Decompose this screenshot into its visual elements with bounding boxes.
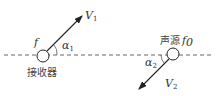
diagram-canvas bbox=[0, 0, 216, 96]
angle-alpha2-label: α2 bbox=[145, 57, 157, 70]
angle-alpha1-label: α1 bbox=[62, 40, 74, 53]
receiver-label: 接收器 bbox=[27, 68, 57, 78]
velocity-v2-label: V2 bbox=[165, 78, 177, 91]
receiver-circle bbox=[37, 50, 49, 62]
source-circle bbox=[167, 48, 179, 60]
velocity-v1-label: V1 bbox=[85, 10, 97, 23]
angle-alpha2-arc bbox=[161, 55, 164, 63]
source-label: 声源f0 bbox=[160, 31, 193, 48]
receiver-frequency-label: f bbox=[34, 37, 38, 48]
angle-alpha1-arc bbox=[54, 45, 57, 55]
